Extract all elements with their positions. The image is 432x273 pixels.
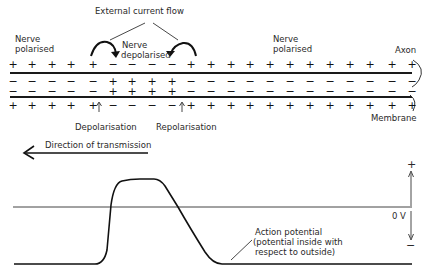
charge-inner-bottom: − [47,86,57,97]
charge-outer-bottom: + [88,100,98,111]
charge-outer-bottom: + [365,100,375,111]
charge-outer-top: + [305,59,315,70]
charge-outer-top: + [265,59,275,70]
label-action-potential: Action potential (potential inside with … [253,227,343,257]
label-line: polarised [15,44,54,54]
label-depolarisation: Depolarisation [75,122,137,132]
charge-outer-bottom: + [47,100,57,111]
charge-outer-bottom: + [387,100,397,111]
charge-outer-bottom: + [325,100,335,111]
charge-inner-bottom: − [265,86,275,97]
action-potential-curve [14,179,412,264]
charge-outer-top: − [167,59,177,70]
label-line: Nerve [122,40,171,50]
charge-outer-top: + [27,59,37,70]
charge-inner-bottom: + [127,86,137,97]
charge-inner-bottom: − [285,86,295,97]
label-repolarisation: Repolarisation [156,122,217,132]
charge-inner-bottom: − [27,86,37,97]
charge-outer-bottom: + [245,100,255,111]
charge-outer-top: + [88,59,98,70]
charge-inner-bottom: − [305,86,315,97]
charge-outer-bottom: − [147,100,157,111]
label-zero-volts: 0 V [392,211,406,221]
charge-outer-bottom: + [305,100,315,111]
label-membrane: Membrane [371,113,417,123]
charge-outer-bottom: − [167,100,177,111]
charge-outer-bottom: + [407,100,417,111]
charge-outer-top: + [206,59,216,70]
charge-outer-top: + [325,59,335,70]
charge-inner-bottom: − [387,86,397,97]
label-external-current-flow: External current flow [95,6,184,16]
charge-outer-bottom: − [127,100,137,111]
charge-inner-bottom: − [206,86,216,97]
charge-outer-bottom: + [186,100,196,111]
current-arrow-left-icon [91,42,116,56]
charge-inner-bottom: − [226,86,236,97]
charge-outer-top: + [245,59,255,70]
current-flow-pointer-right [153,23,178,40]
current-arrow-right-icon [171,43,196,56]
charge-outer-top: + [365,59,375,70]
label-line: Nerve [273,34,312,44]
current-arrow-left-head [111,51,120,58]
charge-outer-top: − [127,59,137,70]
charge-outer-bottom: − [108,100,118,111]
label-axon: Axon [395,45,416,55]
charge-outer-bottom: + [265,100,275,111]
charge-outer-bottom: + [66,100,76,111]
label-minus-axis: − [406,241,415,251]
charge-outer-top: + [47,59,57,70]
charge-outer-top: + [345,59,355,70]
charge-outer-bottom: + [206,100,216,111]
charge-inner-bottom: − [245,86,255,97]
current-flow-pointer-left [110,23,145,40]
charge-inner-bottom: − [66,86,76,97]
charge-inner-bottom: − [365,86,375,97]
label-line: respect to outside) [255,247,343,257]
charge-inner-bottom: − [407,86,417,97]
charge-inner-bottom: − [88,86,98,97]
label-nerve-polarised-right: Nerve polarised [273,34,312,54]
charge-inner-bottom: − [186,86,196,97]
charge-inner-bottom: + [147,86,157,97]
charge-inner-bottom: − [325,86,335,97]
label-line: Action potential [255,227,343,237]
charge-outer-top: + [285,59,295,70]
charge-outer-bottom: + [8,100,18,111]
label-line: Nerve [15,34,54,44]
charge-outer-bottom: + [285,100,295,111]
charge-inner-bottom: − [8,86,18,97]
charge-outer-bottom: + [226,100,236,111]
charge-outer-top: + [387,59,397,70]
label-nerve-polarised-left: Nerve polarised [15,34,54,54]
label-plus-axis: + [407,160,416,170]
label-line: polarised [273,44,312,54]
label-direction-of-transmission: Direction of transmission [45,140,151,150]
charge-inner-bottom: − [345,86,355,97]
charge-outer-top: + [186,59,196,70]
charge-outer-top: − [147,59,157,70]
charge-outer-top: + [8,59,18,70]
diagram-graphics [0,0,432,273]
charge-outer-top: + [226,59,236,70]
charge-outer-top: + [66,59,76,70]
charge-inner-bottom: + [108,86,118,97]
charge-outer-bottom: + [345,100,355,111]
label-line: (potential inside with [253,237,343,247]
charge-inner-bottom: + [167,86,177,97]
charge-outer-top: − [108,59,118,70]
charge-outer-bottom: + [27,100,37,111]
action-potential-pointer [231,240,252,260]
charge-outer-top: + [407,59,417,70]
label-nerve-depolarised: Nerve depolarised [122,40,171,60]
